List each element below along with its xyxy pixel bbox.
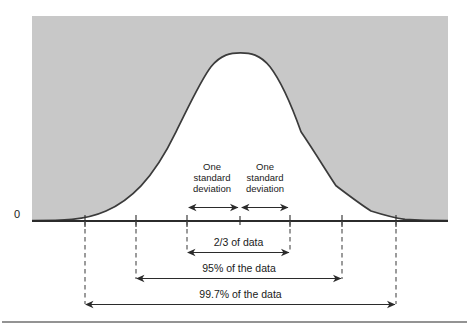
band-1-label: 2/3 of data: [188, 236, 289, 248]
sd-right-label: One standard deviation: [234, 161, 296, 195]
band-3-label: 99.7% of the data: [86, 288, 395, 300]
axis-origin-label: 0: [14, 208, 20, 221]
sd-right-line-3: deviation: [234, 183, 296, 194]
band-2-label: 95% of the data: [137, 262, 341, 274]
sd-right-line-2: standard: [234, 172, 296, 183]
sd-right-line-1: One: [234, 161, 296, 172]
normal-distribution-figure: 0 One standard deviation One standard de…: [0, 0, 469, 331]
